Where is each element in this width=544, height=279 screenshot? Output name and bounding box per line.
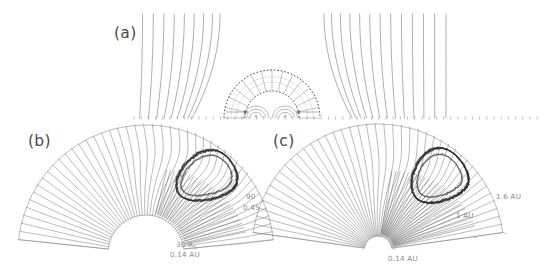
figure-root: (a) (b) (c) 90 0.45 30 RS 0.14 AU 0.14 A… [0,0,544,279]
panel-c-label: (c) [273,132,295,150]
angle-value-label: 0.45 [243,203,260,212]
angle-label: 90 [246,192,256,201]
figure-background [0,0,544,279]
panel-c-outer-au-label: 1.6 AU [496,192,521,201]
panel-a-label: (a) [114,24,137,42]
panel-c-inner-au-label: 0.14 AU [388,254,418,263]
panel-c-mid-au-label: 1 AU [456,211,474,220]
panel-b-label: (b) [28,132,51,150]
figure-canvas: (a) (b) (c) 90 0.45 30 RS 0.14 AU 0.14 A… [0,0,544,279]
panel-b-radius-au-label: 0.14 AU [170,250,200,259]
